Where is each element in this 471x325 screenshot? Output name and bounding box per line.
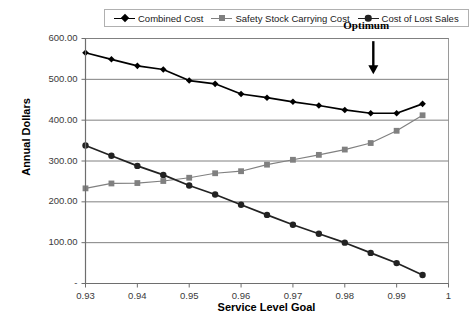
- data-point: [134, 163, 140, 169]
- x-tick-label: 0.93: [66, 290, 106, 301]
- data-point: [368, 250, 374, 256]
- data-point: [368, 140, 374, 146]
- y-axis-title: Annual Dollars: [20, 67, 32, 207]
- data-point: [290, 157, 296, 163]
- data-point: [420, 112, 426, 118]
- data-point: [160, 178, 166, 184]
- data-point: [134, 180, 140, 186]
- data-point: [186, 182, 192, 188]
- x-tick-label: 0.94: [117, 290, 157, 301]
- x-axis-title: Service Level Goal: [85, 301, 448, 313]
- data-point: [393, 260, 399, 266]
- x-tick-label: 0.98: [325, 290, 365, 301]
- x-tick-label: 0.99: [377, 290, 417, 301]
- y-tick-label: 500.00: [34, 73, 78, 84]
- chart-container: Combined Cost Safety Stock Carrying Cost…: [0, 0, 471, 325]
- data-point: [290, 222, 296, 228]
- data-point: [212, 170, 218, 176]
- y-tick-label: 100.00: [34, 236, 78, 247]
- data-point: [419, 272, 425, 278]
- data-point: [316, 152, 322, 158]
- x-tick-label: 0.95: [169, 290, 209, 301]
- y-tick-label: 200.00: [34, 195, 78, 206]
- data-point: [342, 239, 348, 245]
- data-point: [186, 175, 192, 181]
- data-point: [109, 181, 115, 187]
- data-point: [212, 191, 218, 197]
- x-tick-label: 0.97: [273, 290, 313, 301]
- y-tick-label: 600.00: [34, 32, 78, 43]
- x-tick-label: 1: [429, 290, 469, 301]
- data-point: [264, 212, 270, 218]
- y-tick-label: 300.00: [34, 155, 78, 166]
- y-tick-label: -: [34, 277, 78, 288]
- data-point: [394, 128, 400, 134]
- x-tick-label: 0.96: [221, 290, 261, 301]
- data-point: [160, 172, 166, 178]
- data-point: [108, 152, 114, 158]
- data-point: [238, 168, 244, 174]
- annotation-optimum-label: Optimum: [343, 19, 389, 31]
- data-point: [342, 147, 348, 153]
- data-point: [316, 230, 322, 236]
- data-point: [238, 201, 244, 207]
- data-point: [264, 162, 270, 168]
- y-tick-label: 400.00: [34, 114, 78, 125]
